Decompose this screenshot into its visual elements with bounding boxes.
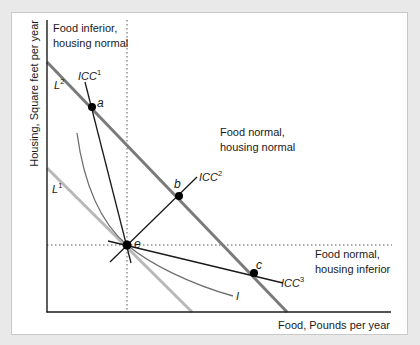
icc2-label: ICC2 <box>199 169 222 183</box>
region-bottom-right-label: Food normal, housing inferior <box>315 248 391 275</box>
indifference-curve-i <box>77 133 233 296</box>
region-top-right-label: Food normal, housing normal <box>220 126 295 153</box>
point-c-label: c <box>256 258 262 272</box>
point-e-label: e <box>134 237 141 251</box>
icc3-label: ICC3 <box>281 275 304 289</box>
point-a <box>88 103 96 111</box>
y-axis-title: Housing, Square feet per year <box>28 20 40 167</box>
icc1-label: ICC1 <box>78 68 101 82</box>
point-b <box>175 192 183 200</box>
l1-label: L1 <box>52 181 62 195</box>
icc-diagram: a b c e L2 L1 ICC1 ICC2 ICC3 I Food infe… <box>0 0 420 345</box>
indifference-label: I <box>236 290 239 302</box>
l2-label: L2 <box>54 77 64 91</box>
point-a-label: a <box>97 96 104 110</box>
point-e <box>123 241 132 250</box>
point-b-label: b <box>174 177 181 191</box>
region-top-left-label: Food inferior, housing normal <box>53 22 128 49</box>
icc2-curve <box>110 177 197 262</box>
x-axis-title: Food, Pounds per year <box>278 319 390 331</box>
